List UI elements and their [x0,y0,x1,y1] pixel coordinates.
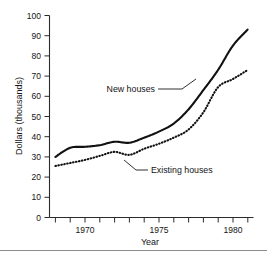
y-tick-label: 40 [32,132,42,142]
x-tick-marks [55,218,247,223]
chart-figure: 0 10 20 30 40 50 60 70 80 90 100 [0,0,267,258]
x-tick-label: 1980 [224,225,243,235]
y-tick-label: 70 [32,71,42,81]
y-tick-label: 0 [36,213,41,223]
new-houses-annotation: New houses [107,84,156,94]
y-tick-label: 60 [32,91,42,101]
x-axis-title: Year [141,237,159,247]
y-tick-marks [45,16,50,218]
y-tick-labels: 0 10 20 30 40 50 60 70 80 90 100 [27,11,41,223]
x-tick-label: 1970 [76,225,95,235]
y-axis-title: Dollars (thousands) [14,77,24,155]
existing-houses-annotation: Existing houses [151,165,213,175]
y-tick-label: 20 [32,172,42,182]
new-houses-leader-line [158,79,196,89]
y-tick-label: 50 [32,112,42,122]
axes-group [50,16,254,218]
x-tick-label: 1975 [150,225,169,235]
x-tick-labels: 1970 1975 1980 [76,225,243,235]
y-tick-label: 100 [27,11,41,21]
y-tick-label: 10 [32,192,42,202]
y-tick-label: 90 [32,31,42,41]
existing-houses-leader-line [124,160,148,170]
line-chart: 0 10 20 30 40 50 60 70 80 90 100 [0,0,267,258]
y-tick-label: 80 [32,51,42,61]
y-tick-label: 30 [32,152,42,162]
